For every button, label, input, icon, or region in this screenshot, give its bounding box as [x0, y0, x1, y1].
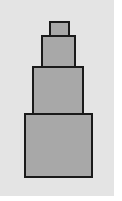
diagram-panel	[0, 0, 114, 196]
tier-bottom	[24, 113, 93, 178]
tier-top	[49, 21, 70, 37]
tier-second	[41, 35, 76, 68]
tier-third	[32, 66, 84, 115]
